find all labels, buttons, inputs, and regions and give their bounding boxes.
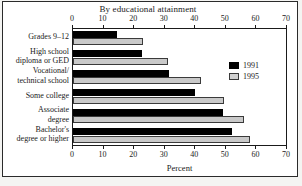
x-tick-bottom [164,146,165,149]
category-label-line: High school [0,47,69,57]
chart-legend: 19911995 [229,60,259,82]
bar-1995 [73,97,224,104]
category-label-line: Associate [0,105,69,115]
x-tick-label-bottom: 20 [123,150,143,159]
x-tick-bottom [194,146,195,149]
bar-group [73,87,286,107]
bar-1991 [73,70,169,77]
bar-1991 [73,89,195,96]
legend-item-1995: 1995 [229,71,259,82]
category-label: Grades 9–12 [0,32,69,42]
category-label-line: Grades 9–12 [0,32,69,42]
x-tick-label-bottom: 60 [245,150,265,159]
category-label: Bachelor'sdegree or higher [0,125,69,144]
category-label-line: Some college [0,91,69,101]
x-tick-label-bottom: 50 [215,150,235,159]
category-label-line: diploma or GED [0,56,69,66]
legend-label: 1991 [243,61,259,70]
legend-swatch-icon [229,73,239,80]
x-tick-label-top: 70 [276,14,296,23]
legend-label: 1995 [243,72,259,81]
x-tick-label-top: 20 [123,14,143,23]
x-tick-bottom [286,146,287,149]
x-tick-label-top: 50 [215,14,235,23]
x-tick-label-top: 40 [184,14,204,23]
legend-item-1991: 1991 [229,60,259,71]
x-tick-label-bottom: 10 [93,150,113,159]
x-tick-label-bottom: 70 [276,150,296,159]
plot-right-spine [286,28,287,145]
bar-group [73,126,286,146]
x-tick-label-bottom: 0 [62,150,82,159]
bar-1991 [73,31,117,38]
bar-1991 [73,50,142,57]
category-label: Vocational/technical school [0,66,69,85]
x-tick-label-top: 60 [245,14,265,23]
bar-1995 [73,116,244,123]
x-tick-bottom [133,146,134,149]
category-label-line: Vocational/ [0,66,69,76]
category-label: Some college [0,91,69,101]
bar-group [73,28,286,48]
x-axis-label: Percent [72,163,287,173]
bar-1995 [73,136,250,143]
category-label-line: Bachelor's [0,125,69,135]
category-label-line: degree or higher [0,134,69,144]
bar-1991 [73,109,223,116]
x-tick-label-top: 30 [154,14,174,23]
x-tick-label-top: 10 [93,14,113,23]
plot-area [72,28,287,145]
category-label: High schooldiploma or GED [0,47,69,66]
bar-1995 [73,58,168,65]
x-tick-bottom [72,146,73,149]
bar-1995 [73,38,143,45]
legend-swatch-icon [229,62,239,69]
x-tick-bottom [103,146,104,149]
x-tick-label-bottom: 30 [154,150,174,159]
chart-figure: By educational attainment 01020304050607… [0,0,302,186]
x-tick-label-top: 0 [62,14,82,23]
bar-1995 [73,77,201,84]
category-label-line: technical school [0,76,69,86]
category-label: Associatedegree [0,105,69,124]
chart-title: By educational attainment [0,4,296,14]
bar-group [73,106,286,126]
x-tick-label-bottom: 40 [184,150,204,159]
x-tick-bottom [255,146,256,149]
x-tick-bottom [225,146,226,149]
category-label-line: degree [0,115,69,125]
bar-1991 [73,128,232,135]
